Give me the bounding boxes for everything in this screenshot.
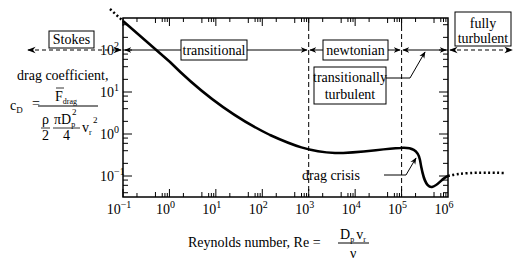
y-tick-label: 102 <box>100 40 119 58</box>
x-tick-label: 100 <box>156 199 175 217</box>
velocity-symbol: vr <box>82 120 92 137</box>
xlabel-numerator: Dpvr <box>340 227 366 244</box>
drag-curve <box>123 21 448 187</box>
transitional-label: transitional <box>183 43 246 58</box>
pi-d-square: 2 <box>72 107 77 117</box>
x-tick-label: 106 <box>435 199 454 217</box>
rho-symbol: ρ <box>42 112 49 127</box>
x-tick-label: 105 <box>388 199 407 217</box>
equals-sign: = <box>32 96 40 111</box>
y-tick-label: 100 <box>100 124 119 142</box>
newtonian-label: newtonian <box>326 43 384 58</box>
x-tick-label: 102 <box>249 199 268 217</box>
y-tick-labels: 10210110010−1 <box>100 40 125 184</box>
two-symbol: 2 <box>42 128 49 143</box>
fully-turbulent-label-line1: fully <box>470 16 496 31</box>
y-tick-label: 10−1 <box>100 166 125 184</box>
drag-crisis-label: drag crisis <box>302 168 360 183</box>
xlabel-text: Reynolds number, Re = <box>188 235 321 250</box>
drag-crisis-pointer <box>384 158 416 175</box>
stokes-label: Stokes <box>53 32 90 47</box>
plot-frame <box>123 18 448 197</box>
fully-turbulent-label-line2: turbulent <box>458 31 509 46</box>
x-axis-ticks <box>123 18 446 197</box>
drag-curve-dotted-left <box>110 9 123 21</box>
drag-curve-dotted-right <box>448 173 505 176</box>
cd-symbol: cD <box>10 98 23 115</box>
transitionally-turbulent-label-line2: turbulent <box>325 87 376 102</box>
x-tick-label: 104 <box>342 199 361 217</box>
transitionally-turbulent-pointer <box>386 52 425 78</box>
force-drag: Fdrag <box>55 89 77 106</box>
drag-coefficient-diagram: Stokes transitional newtonian transition… <box>0 0 518 266</box>
xlabel-denominator: ν <box>350 246 356 261</box>
x-tick-label: 10−1 <box>107 199 132 217</box>
x-tick-label: 101 <box>202 199 221 217</box>
transitionally-turbulent-label-line1: transitionally <box>313 70 387 85</box>
x-tick-labels: 10−1100101102103104105106 <box>107 199 454 217</box>
velocity-square: 2 <box>93 115 98 125</box>
ylabel-title: drag coefficient, <box>17 68 108 83</box>
x-tick-label: 103 <box>295 199 314 217</box>
y-tick-label: 101 <box>100 82 119 100</box>
four-symbol: 4 <box>63 128 70 143</box>
